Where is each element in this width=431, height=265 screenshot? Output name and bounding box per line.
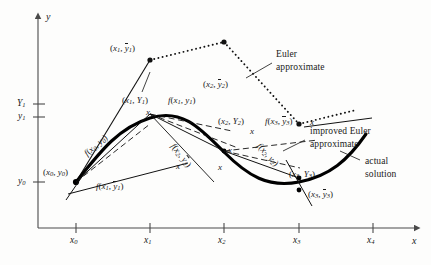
annotation-actual-line2: solution <box>365 170 396 180</box>
slope-label-f-x1-y1bar: f(x1, y1) <box>96 182 124 192</box>
euler-approximate-polyline <box>76 39 356 182</box>
x-tick-label-3: x3 <box>293 236 300 246</box>
euler-point-x3 <box>296 121 301 126</box>
annotation-improved-line2: approximate <box>310 140 359 150</box>
euler-point-x2 <box>221 39 226 44</box>
point-label-x1-y1bar: (x1, y1) <box>110 44 135 54</box>
point-label-x2-y2bar: (x2, y2) <box>203 80 228 90</box>
slope-marker-3: x <box>250 127 254 136</box>
x-tick-label-4: x4 <box>367 236 374 246</box>
y-tick-label-y1: y1 <box>18 112 25 122</box>
slope-label-f-x1-y1: f(x1, y1) <box>168 96 196 106</box>
euler-method-diagram: y x x0 x1 x2 x3 x4 Y1 y1 y0 (x0, y0) (x1… <box>0 0 431 265</box>
y-axis-label: y <box>46 12 50 22</box>
leader-x1-euler-point <box>142 72 150 92</box>
point-label-x3-y3bar: (x3, y3) <box>308 190 333 200</box>
slope-marker-1: x <box>176 162 180 171</box>
euler-point-x1 <box>147 57 152 62</box>
slope-dash-x2-b <box>224 140 318 151</box>
slope-marker-5: x <box>218 163 222 172</box>
annotation-euler-line2: approximate <box>276 63 325 73</box>
annotation-euler-line1: Euler <box>276 50 297 60</box>
euler-seg-1 <box>150 42 224 60</box>
point-label-x1-Y1: (x1, Y1) <box>122 96 148 106</box>
x-tick-label-2: x2 <box>218 236 225 246</box>
x-tick-label-1: x1 <box>144 236 151 246</box>
annotation-improved-line1: improved Euler <box>310 127 371 137</box>
annotation-actual-line1: actual <box>365 157 388 167</box>
point-label-x2-Y2: (x2, Y2) <box>218 117 244 127</box>
y-tick-label-Y1: Y1 <box>17 99 26 109</box>
slope-tick-x0 <box>66 168 88 200</box>
y-tick-label-y0: y0 <box>18 177 25 187</box>
x-tick-label-0: x0 <box>70 236 77 246</box>
point-label-x3-Y3: (x3, Y3) <box>289 170 315 180</box>
euler-seg-3 <box>299 110 356 124</box>
euler-point-x3-lower <box>297 188 302 193</box>
slope-label-f-x3-y3bar: f(x3, y3) <box>265 117 293 127</box>
x-axis-label: x <box>412 236 416 246</box>
leader-improved <box>283 140 305 151</box>
slope-marker-2: x <box>228 146 232 155</box>
slope-marker-0: x <box>146 108 150 117</box>
point-label-x0-y0: (x0, y0) <box>43 168 68 178</box>
